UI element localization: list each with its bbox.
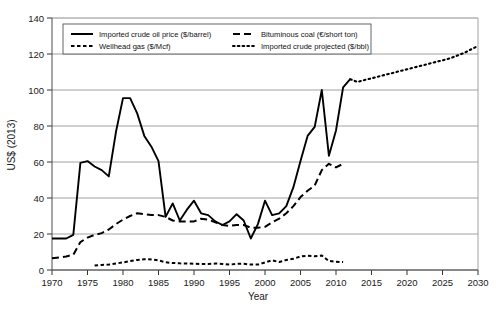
energy-prices-line-chart: 020406080100120140 197019751980198519901…	[0, 0, 501, 311]
chart-figure: 020406080100120140 197019751980198519901…	[0, 0, 501, 311]
y-axis-title: US$ (2013)	[6, 119, 17, 170]
x-tick-label: 2020	[396, 277, 417, 288]
x-tick-label: 1975	[77, 277, 98, 288]
x-tick-label: 2030	[467, 277, 488, 288]
chart-plot-area: 020406080100120140 197019751980198519901…	[0, 0, 501, 311]
y-tick-label: 120	[28, 49, 44, 60]
x-tick-label: 2025	[432, 277, 453, 288]
x-axis-ticks: 1970197519801985199019952000200520102015…	[41, 270, 488, 288]
y-tick-label: 40	[33, 193, 44, 204]
x-tick-label: 1980	[112, 277, 133, 288]
x-tick-label: 1995	[219, 277, 240, 288]
y-tick-label: 140	[28, 13, 44, 24]
x-tick-label: 1985	[148, 277, 169, 288]
gridlines	[52, 18, 478, 270]
x-tick-label: 2015	[361, 277, 382, 288]
plot-frame	[52, 18, 478, 270]
legend-label: Wellhead gas ($/Mcf)	[99, 42, 171, 51]
legend-label: Imported crude oil price ($/barrel)	[99, 30, 212, 39]
x-tick-label: 1990	[183, 277, 204, 288]
x-tick-label: 2010	[325, 277, 346, 288]
y-tick-label: 0	[39, 265, 44, 276]
chart-legend: Imported crude oil price ($/barrel)Bitum…	[63, 24, 371, 54]
y-tick-label: 100	[28, 85, 44, 96]
series-line-2	[52, 164, 343, 258]
y-tick-label: 60	[33, 157, 44, 168]
y-axis-ticks: 020406080100120140	[28, 13, 52, 276]
legend-label: Bituminous coal (€/short ton)	[261, 30, 358, 39]
legend-label: Imported crude projected ($/bbl)	[261, 42, 370, 51]
x-tick-label: 1970	[41, 277, 62, 288]
series-line-3	[95, 256, 344, 266]
series-line-1	[52, 79, 350, 238]
x-tick-label: 2000	[254, 277, 275, 288]
x-tick-label: 2005	[290, 277, 311, 288]
data-series-group	[52, 46, 478, 266]
y-tick-label: 80	[33, 121, 44, 132]
y-tick-label: 20	[33, 229, 44, 240]
x-axis-title: Year	[248, 291, 269, 302]
